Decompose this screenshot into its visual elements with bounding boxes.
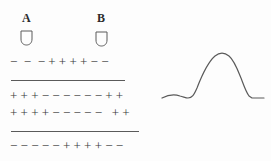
charge-row: − − − − − + + + + − − [10,139,145,152]
charge-row: − − − + + + + − − [10,55,145,68]
membrane-charge-diagram: A B − − − + + + + − − + + + − − − − − − … [0,0,150,161]
electrode-cup-icon-a [20,30,33,46]
probe-label-b: B [97,12,105,24]
charge-row: + + + + − − − − − + + [10,106,145,119]
action-potential-curve [162,53,264,98]
electrode-cup-icon-b [95,31,108,47]
membrane-line [11,131,139,132]
figure-root: A B − − − + + + + − − + + + − − − − − − … [0,0,271,161]
action-potential-trace [160,45,266,117]
action-potential-curve-svg [160,45,266,117]
membrane-line [11,80,125,81]
probe-label-a: A [22,12,31,24]
charge-row: + + + − − − − − − + + [10,89,145,102]
